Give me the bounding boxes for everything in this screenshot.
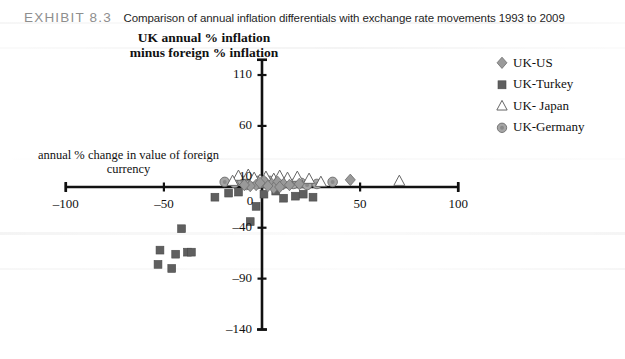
- y-tick-label: –140: [206, 321, 252, 337]
- legend-label: UK-US: [513, 55, 553, 71]
- x-tick-label: 50: [335, 196, 385, 212]
- legend-label: UK-Germany: [513, 119, 584, 135]
- x-tick-label-0: 0: [240, 193, 260, 209]
- legend-label: UK- Japan: [513, 98, 569, 114]
- legend-item-uk-japan[interactable]: UK- Japan: [494, 95, 584, 117]
- circle-marker: [494, 121, 509, 134]
- legend-item-uk-germany[interactable]: UK-Germany: [494, 117, 584, 139]
- triangle-marker: [494, 99, 509, 112]
- legend-label: UK-Turkey: [513, 76, 573, 92]
- x-tick-label: –50: [139, 196, 189, 212]
- y-tick-label: 110: [206, 66, 252, 82]
- y-tick-label: 60: [206, 117, 252, 133]
- chart-legend: UK-USUK-TurkeyUK- JapanUK-Germany: [494, 52, 584, 138]
- square-marker: [494, 78, 509, 91]
- x-tick-label: –100: [41, 196, 91, 212]
- y-tick-label: –40: [206, 219, 252, 235]
- x-tick-label: 100: [433, 196, 483, 212]
- y-tick-label: –90: [206, 270, 252, 286]
- legend-item-uk-us[interactable]: UK-US: [494, 52, 584, 74]
- legend-item-uk-turkey[interactable]: UK-Turkey: [494, 74, 584, 96]
- y-tick-label: 10: [206, 168, 252, 184]
- diamond-marker: [494, 56, 509, 69]
